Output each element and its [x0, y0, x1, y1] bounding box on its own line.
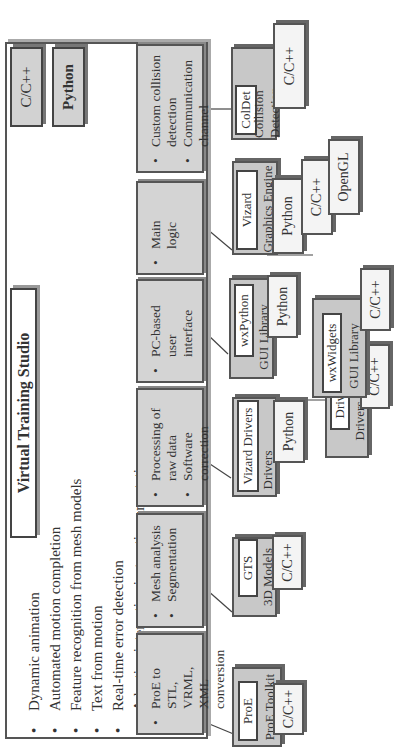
language-python: Python — [267, 275, 298, 338]
language-opengl: OpenGL — [328, 139, 360, 215]
feature-item: Feature recognition from mesh models — [66, 303, 87, 733]
component-gts: GTS 3D Models — [232, 537, 277, 617]
module-collision: Custom collision detection Communication… — [136, 44, 204, 173]
module-item: PC-based user interface — [148, 289, 196, 373]
component-name: Vizard — [236, 170, 258, 250]
component-name: ProE — [238, 681, 258, 741]
language-c-cpp: C/C++ — [273, 23, 306, 109]
module-item: Mesh analysis — [148, 523, 164, 618]
feature-item: Dynamic animation — [24, 303, 45, 733]
module-item: Custom collision detection — [148, 54, 180, 163]
component-vizard-drivers: Vizard Drivers Drivers — [232, 397, 277, 497]
module-item: Software correction — [180, 398, 212, 497]
component-coldet: ColDet Collision Detection — [231, 47, 277, 140]
feature-item: Automated motion completion — [45, 303, 66, 733]
language-python: Python — [272, 178, 304, 254]
module-proe-conversion: ProE to STL, VRML, XML conversion — [136, 633, 204, 735]
language-c-cpp: C/C++ — [360, 268, 391, 331]
feature-list: Dynamic animation Automated motion compl… — [24, 303, 150, 733]
module-item: ProE to STL, VRML, XML conversion — [148, 643, 228, 725]
module-user-interface: PC-based user interface — [136, 279, 204, 383]
module-item: Processing of raw data — [148, 398, 180, 497]
feature-item: Real-time error detection — [108, 303, 129, 733]
language-c-cpp: C/C++ — [273, 683, 304, 735]
legend-python: Python — [52, 47, 85, 127]
module-item: Communication channel — [180, 54, 212, 163]
legend-c-cpp: C/C++ — [10, 47, 43, 127]
language-c-cpp: C/C++ — [272, 535, 303, 590]
component-name: wxWidgets — [322, 313, 342, 393]
module-item: Segmentation — [164, 523, 180, 618]
module-main-logic: Main logic — [136, 181, 204, 275]
component-wxwidgets: wxWidgets GUI Library — [312, 298, 367, 398]
module-item: Main logic — [148, 191, 180, 265]
module-mesh-analysis: Mesh analysis Segmentation — [136, 513, 204, 628]
component-name: GTS — [238, 539, 258, 597]
component-name: Vizard Drivers — [237, 400, 259, 492]
component-name: wxPython — [234, 284, 254, 357]
module-data-processing: Processing of raw data Software correcti… — [136, 388, 204, 507]
feature-item: Text from motion — [87, 303, 108, 733]
language-python: Python — [273, 400, 305, 463]
